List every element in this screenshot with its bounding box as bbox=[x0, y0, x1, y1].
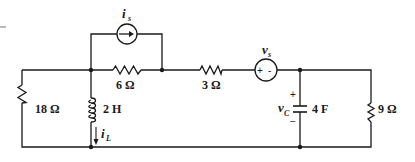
svg-text:s: s bbox=[127, 14, 131, 23]
svg-text:-: - bbox=[268, 65, 271, 76]
svg-text:C: C bbox=[284, 109, 290, 118]
svg-text:+: + bbox=[257, 65, 263, 76]
svg-text:−: − bbox=[290, 116, 296, 127]
voltage-source: + - v s bbox=[255, 42, 277, 81]
svg-text:L: L bbox=[105, 134, 111, 143]
svg-text:9 Ω: 9 Ω bbox=[378, 102, 397, 116]
svg-text:4 F: 4 F bbox=[312, 102, 328, 116]
svg-text:i: i bbox=[101, 126, 105, 141]
capacitor-4F: 4 F + − v C bbox=[278, 89, 328, 127]
resistor-6-ohm: 6 Ω bbox=[113, 66, 141, 92]
svg-text:18 Ω: 18 Ω bbox=[35, 102, 60, 116]
svg-text:s: s bbox=[267, 50, 271, 59]
arrow-right-icon bbox=[129, 31, 134, 37]
svg-text:3 Ω: 3 Ω bbox=[202, 78, 221, 92]
svg-text:+: + bbox=[290, 89, 296, 100]
resistor-18-ohm: 18 Ω bbox=[18, 85, 60, 116]
svg-text:6 Ω: 6 Ω bbox=[116, 78, 135, 92]
svg-text:i: i bbox=[122, 6, 126, 21]
resistor-3-ohm: 3 Ω bbox=[200, 66, 222, 92]
inductor-2H: 2 H i L bbox=[89, 98, 122, 145]
current-source: i s bbox=[117, 6, 137, 44]
circuit-diagram: 18 Ω 6 Ω 3 Ω 9 Ω i s + - v s 2 H i bbox=[0, 0, 415, 162]
svg-text:2 H: 2 H bbox=[103, 102, 122, 116]
resistor-9-ohm: 9 Ω bbox=[368, 102, 397, 122]
wires bbox=[22, 34, 371, 147]
